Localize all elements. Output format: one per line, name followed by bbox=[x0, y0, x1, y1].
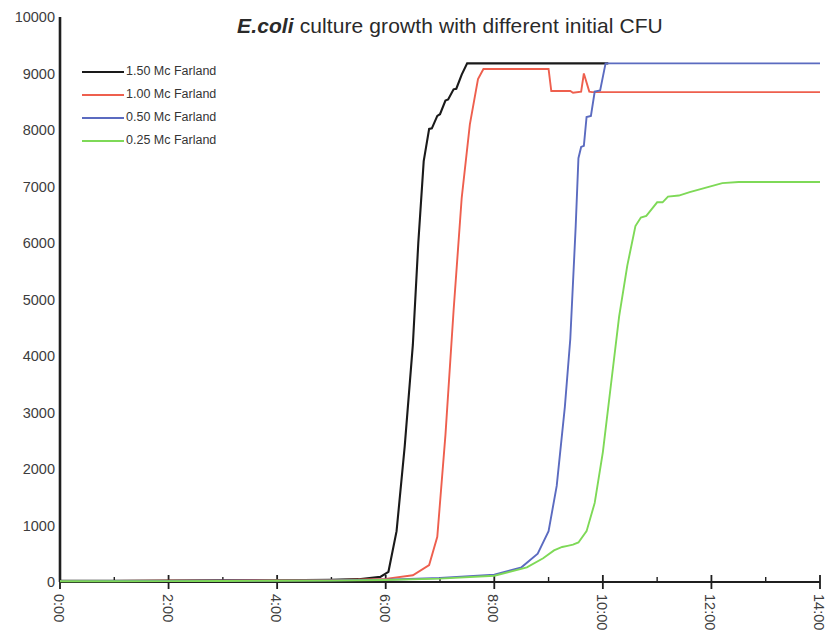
legend-swatch-line bbox=[82, 71, 124, 73]
legend-swatch-line bbox=[82, 117, 124, 119]
legend-item-label: 1.50 Mc Farland bbox=[126, 65, 216, 78]
x-axis-tick-label: 2:00 bbox=[160, 594, 176, 622]
y-axis-tick-label: 6000 bbox=[3, 235, 55, 251]
x-axis-tick-label: 0:00 bbox=[51, 594, 67, 622]
legend-item[interactable]: 0.25 Mc Farland bbox=[82, 129, 216, 152]
legend-swatch-line bbox=[82, 140, 124, 142]
y-axis-tick-labels: 0100020003000400050006000700080009000100… bbox=[0, 0, 55, 628]
chart-legend: 1.50 Mc Farland 1.00 Mc Farland 0.50 Mc … bbox=[82, 60, 216, 152]
chart-title: E.coli culture growth with different ini… bbox=[130, 14, 770, 38]
series-line-4 bbox=[60, 182, 820, 581]
chart-title-rest: culture growth with different initial CF… bbox=[294, 14, 663, 37]
legend-item[interactable]: 0.50 Mc Farland bbox=[82, 106, 216, 129]
y-axis-tick-label: 10000 bbox=[3, 9, 55, 25]
y-axis-tick-label: 7000 bbox=[3, 179, 55, 195]
x-axis-tick-label: 12:00 bbox=[702, 594, 718, 630]
y-axis-tick-label: 3000 bbox=[3, 405, 55, 421]
x-axis-tick-label: 14:00 bbox=[811, 594, 827, 630]
legend-item-label: 0.50 Mc Farland bbox=[126, 111, 216, 124]
legend-item-label: 0.25 Mc Farland bbox=[126, 134, 216, 147]
y-axis-tick-label: 2000 bbox=[3, 461, 55, 477]
legend-item-label: 1.00 Mc Farland bbox=[126, 88, 216, 101]
legend-swatch-line bbox=[82, 94, 124, 96]
x-axis-tick-label: 8:00 bbox=[485, 594, 501, 622]
y-axis-tick-label: 1000 bbox=[3, 518, 55, 534]
x-axis-tick-label: 4:00 bbox=[268, 594, 284, 622]
y-axis-tick-label: 9000 bbox=[3, 66, 55, 82]
x-axis-tick-label: 10:00 bbox=[594, 594, 610, 630]
x-axis-tick-label: 6:00 bbox=[377, 594, 393, 622]
chart-title-emphasis: E.coli bbox=[237, 14, 294, 37]
legend-item[interactable]: 1.50 Mc Farland bbox=[82, 60, 216, 83]
y-axis-tick-label: 4000 bbox=[3, 348, 55, 364]
y-axis-tick-label: 5000 bbox=[3, 292, 55, 308]
legend-item[interactable]: 1.00 Mc Farland bbox=[82, 83, 216, 106]
y-axis-tick-label: 8000 bbox=[3, 122, 55, 138]
y-axis-tick-label: 0 bbox=[3, 574, 55, 590]
